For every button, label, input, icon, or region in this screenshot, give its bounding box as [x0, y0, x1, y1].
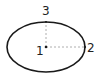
center-point: [45, 46, 48, 49]
ellipse-diagram: 1 2 3: [0, 0, 102, 75]
point-label-1: 1: [36, 44, 44, 58]
point-label-3: 3: [42, 4, 50, 18]
top-vertex-point: [45, 21, 47, 23]
point-label-2: 2: [87, 41, 95, 55]
right-vertex-point: [84, 46, 86, 48]
